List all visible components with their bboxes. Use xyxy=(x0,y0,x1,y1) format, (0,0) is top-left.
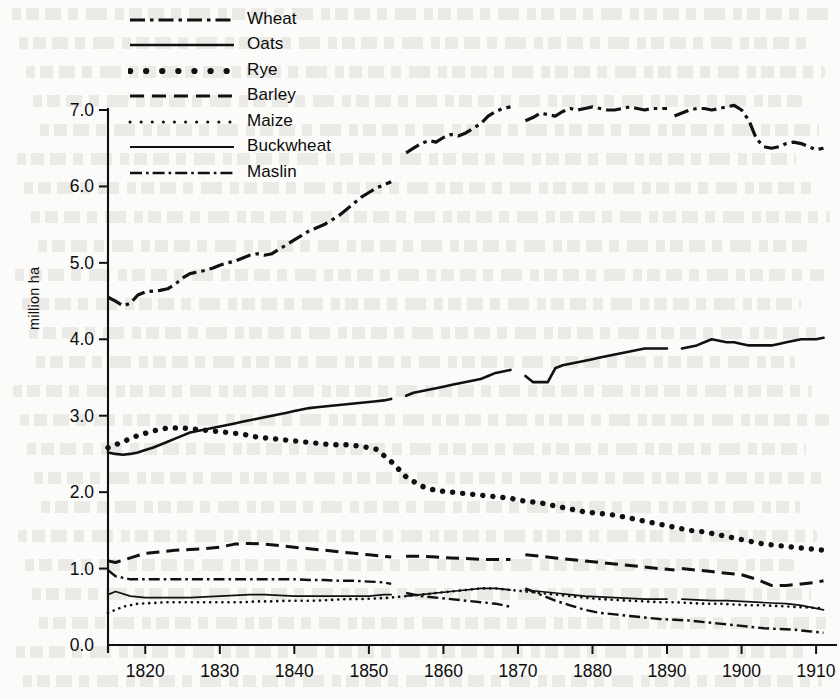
x-axis-tick-label: 1850 xyxy=(349,661,388,681)
y-axis-tick-label: 7.0 xyxy=(70,100,95,120)
legend-label: Maslin xyxy=(247,162,297,182)
legend-item-buckwheat: Buckwheat xyxy=(128,134,331,160)
legend-key-maslin-icon xyxy=(128,165,236,179)
series-rye xyxy=(108,428,824,550)
legend-key-buckwheat-icon xyxy=(128,139,236,153)
legend-item-oats: Oats xyxy=(128,32,331,58)
legend-label: Wheat xyxy=(247,9,297,29)
plot-svg: 7.06.05.04.03.02.01.00.01820183018401850… xyxy=(0,0,839,698)
y-axis-tick-label: 2.0 xyxy=(70,482,95,502)
chart-legend: WheatOatsRyeBarleyMaizeBuckwheatMaslin xyxy=(128,6,331,185)
legend-item-maize: Maize xyxy=(128,108,331,134)
y-axis-tick-label: 6.0 xyxy=(70,176,95,196)
y-axis-tick-label: 5.0 xyxy=(70,253,95,273)
legend-label: Buckwheat xyxy=(247,136,331,156)
legend-label: Rye xyxy=(247,60,278,80)
y-axis-tick-label: 1.0 xyxy=(70,559,95,579)
legend-item-barley: Barley xyxy=(128,83,331,109)
x-axis-tick-label: 1880 xyxy=(573,661,612,681)
legend-item-rye: Rye xyxy=(128,57,331,83)
series-oats xyxy=(108,338,824,455)
legend-key-maize-icon xyxy=(128,114,236,128)
x-axis-tick-label: 1910 xyxy=(797,661,836,681)
x-axis-tick-label: 1820 xyxy=(126,661,165,681)
x-axis-tick-label: 1860 xyxy=(424,661,463,681)
y-axis-label: million ha xyxy=(26,267,42,330)
legend-item-maslin: Maslin xyxy=(128,159,331,185)
legend-label: Oats xyxy=(247,34,283,54)
y-axis-tick-label: 4.0 xyxy=(70,329,95,349)
legend-key-barley-icon xyxy=(128,88,236,102)
legend-key-rye-icon xyxy=(128,63,236,77)
legend-label: Barley xyxy=(247,85,296,105)
y-axis-tick-label: 3.0 xyxy=(70,406,95,426)
y-axis-tick-label: 0.0 xyxy=(70,635,95,655)
x-axis-tick-label: 1890 xyxy=(648,661,687,681)
x-axis-tick-label: 1830 xyxy=(200,661,239,681)
legend-key-oats-icon xyxy=(128,37,236,51)
legend-label: Maize xyxy=(247,111,293,131)
legend-key-wheat-icon xyxy=(128,12,236,26)
chart-page: 7.06.05.04.03.02.01.00.01820183018401850… xyxy=(0,0,839,698)
legend-item-wheat: Wheat xyxy=(128,6,331,32)
series-buckwheat xyxy=(108,588,824,609)
line-chart: 7.06.05.04.03.02.01.00.01820183018401850… xyxy=(0,0,839,698)
x-axis-tick-label: 1870 xyxy=(498,661,537,681)
x-axis-tick-label: 1840 xyxy=(275,661,314,681)
x-axis-tick-label: 1900 xyxy=(722,661,761,681)
